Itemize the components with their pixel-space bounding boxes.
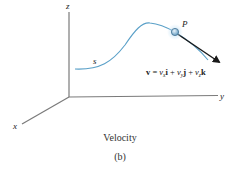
- velocity-equation: v = vxi + vyj + vzk: [146, 67, 206, 78]
- particle-point-icon: [171, 28, 178, 35]
- x-axis-label: x: [12, 121, 17, 131]
- path-label: s: [93, 56, 97, 66]
- y-axis-label: y: [219, 91, 224, 101]
- figure-caption-title: Velocity: [0, 132, 240, 143]
- y-axis: [69, 96, 218, 98]
- figure-caption-subfigure: (b): [0, 151, 240, 162]
- x-axis: [22, 97, 69, 124]
- z-axis-label: z: [65, 1, 70, 11]
- velocity-arrow: [176, 33, 219, 62]
- point-label: P: [181, 19, 188, 29]
